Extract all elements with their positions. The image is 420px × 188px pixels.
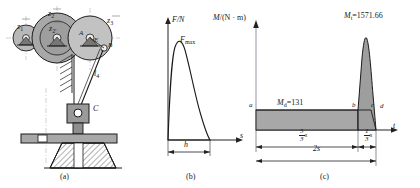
- gear-z3: [68, 16, 112, 60]
- panel-c-chart: [240, 0, 420, 188]
- figure-root: z1 z2 z2' z3 A E B C l4 (a): [0, 0, 420, 188]
- panel-b-y-axis-label: F/N: [172, 16, 184, 24]
- slider-block-c: [67, 104, 89, 134]
- force-curve: [168, 41, 210, 140]
- mt-spike: [358, 38, 376, 130]
- dim-two-s-line: [256, 159, 376, 163]
- link-l4-label: l4: [94, 70, 99, 79]
- gear-z1-label: z1: [17, 23, 23, 32]
- point-b-label: B: [108, 42, 112, 49]
- point-a-label: A: [79, 30, 83, 37]
- dim-two-s-label: 2s: [313, 145, 320, 153]
- md-label: Md=131: [277, 99, 303, 108]
- h-dimension-label: h: [184, 141, 188, 149]
- f-max-label: Fmax: [180, 36, 195, 45]
- panel-c-caption: (c): [320, 172, 329, 181]
- baseline-point-b-label: b: [352, 102, 356, 109]
- panel-c-x-axis-label: t: [393, 122, 395, 130]
- dim-one-third-s-label: 13s: [364, 128, 372, 143]
- panel-a-caption: (a): [60, 172, 69, 181]
- panel-b-caption: (b): [186, 172, 195, 181]
- point-e-label: E: [94, 37, 98, 44]
- dim-five-thirds-s-label: 53s: [299, 128, 307, 143]
- h-dimension: [168, 140, 210, 156]
- baseline-point-a-label: a: [249, 102, 253, 109]
- panel-c-y-axis-label: M/(N · m): [213, 14, 246, 22]
- press-bed: [21, 134, 117, 143]
- baseline-point-d-label: d: [380, 103, 384, 110]
- baseline-point-c-label: c: [371, 102, 374, 109]
- machine-base: [44, 143, 122, 168]
- point-c-label: C: [93, 105, 98, 113]
- gear-z2-prime-label: z2': [49, 25, 56, 34]
- md-block: [256, 110, 371, 130]
- gear-z3-label: z3: [107, 17, 113, 26]
- gear-z2-label: z2: [48, 10, 54, 19]
- mt-label: Mt=1571.66: [344, 12, 383, 21]
